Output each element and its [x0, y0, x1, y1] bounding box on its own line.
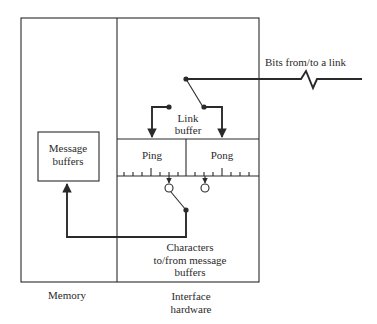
characters-label-3: buffers: [175, 266, 206, 278]
link-buffer-label-1: Link: [178, 112, 199, 124]
pong-char-contact: [201, 184, 209, 192]
ping-feed-arrow: [152, 107, 169, 137]
ping-label: Ping: [142, 149, 163, 161]
ping-char-contact: [165, 184, 173, 192]
interface-label-1: Interface: [171, 290, 210, 302]
characters-label-1: Characters: [166, 241, 213, 253]
link-buffer-label-2: buffer: [175, 124, 202, 136]
link-switch-arm: [186, 79, 203, 107]
pong-label: Pong: [211, 149, 234, 161]
char-switch-arm: [171, 192, 186, 210]
ping-pong-buffer-diagram: Ping Pong Link buffer Bits from/to a lin…: [0, 0, 377, 324]
bits-link-label: Bits from/to a link: [265, 56, 346, 68]
message-buffers-label-2: buffers: [53, 155, 84, 167]
link-buffer-box: [117, 139, 259, 176]
message-buffers-label-1: Message: [49, 142, 88, 154]
interface-label-2: hardware: [171, 303, 212, 315]
link-line: [186, 71, 362, 88]
characters-label-2: to/from message: [153, 254, 226, 266]
memory-label: Memory: [48, 289, 86, 301]
pong-feed-arrow: [204, 107, 222, 137]
